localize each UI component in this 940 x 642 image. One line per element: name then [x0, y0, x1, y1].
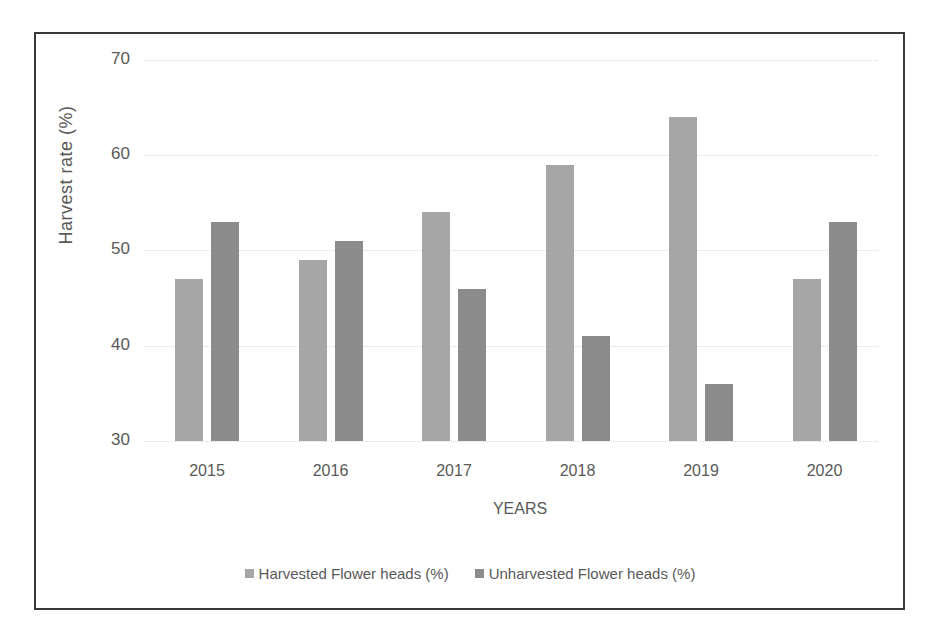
x-tick-label: 2017	[414, 462, 494, 480]
legend-item-unharvested: Unharvested Flower heads (%)	[475, 565, 696, 582]
legend-swatch-unharvested	[475, 569, 484, 578]
gridline	[145, 346, 878, 347]
gridline	[145, 441, 878, 442]
y-tick-label: 60	[90, 144, 130, 164]
y-tick-label: 30	[90, 430, 130, 450]
bar-unharvested-2015	[211, 222, 239, 441]
y-tick-label: 50	[90, 239, 130, 259]
x-tick-label: 2018	[538, 462, 618, 480]
x-tick-label: 2019	[661, 462, 741, 480]
x-axis-label: YEARS	[460, 500, 580, 518]
x-tick-label: 2020	[785, 462, 865, 480]
bar-unharvested-2018	[582, 336, 610, 441]
bar-unharvested-2019	[705, 384, 733, 441]
bar-harvested-2017	[422, 212, 450, 441]
legend-item-harvested: Harvested Flower heads (%)	[245, 565, 449, 582]
bar-harvested-2019	[669, 117, 697, 441]
gridline	[145, 60, 878, 61]
legend: Harvested Flower heads (%) Unharvested F…	[0, 565, 940, 582]
y-axis-label: Harvest rate (%)	[56, 105, 77, 244]
gridline	[145, 155, 878, 156]
bar-unharvested-2017	[458, 289, 486, 441]
bar-harvested-2020	[793, 279, 821, 441]
legend-swatch-harvested	[245, 569, 254, 578]
gridline	[145, 250, 878, 251]
y-tick-label: 40	[90, 335, 130, 355]
x-tick-label: 2015	[167, 462, 247, 480]
bar-unharvested-2020	[829, 222, 857, 441]
bar-unharvested-2016	[335, 241, 363, 441]
legend-label-unharvested: Unharvested Flower heads (%)	[489, 565, 696, 582]
bar-harvested-2015	[175, 279, 203, 441]
y-tick-label: 70	[90, 49, 130, 69]
bar-harvested-2016	[299, 260, 327, 441]
legend-label-harvested: Harvested Flower heads (%)	[259, 565, 449, 582]
bar-harvested-2018	[546, 165, 574, 441]
x-tick-label: 2016	[291, 462, 371, 480]
